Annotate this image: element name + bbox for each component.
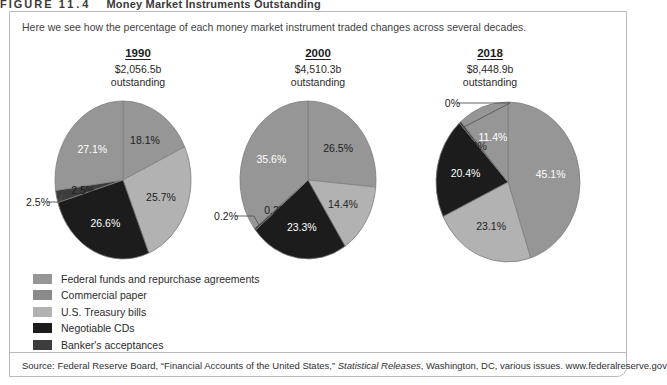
column-outstanding: outstanding: [48, 76, 228, 89]
legend-label: Negotiable CDs: [61, 322, 135, 334]
column-outstanding: outstanding: [400, 76, 580, 89]
pie-slice-label: 20.4%: [451, 167, 481, 179]
column-header-2000: 2000 $4,510.3b outstanding: [228, 47, 408, 89]
source-suffix: , Washington, DC, various issues. www.fe…: [421, 360, 667, 371]
pie-callout-label: 2.5%: [26, 196, 50, 208]
legend-item: Banker's acceptances: [33, 337, 259, 352]
legend-item: Commercial paper: [33, 288, 259, 303]
legend-swatch-federal-funds: [33, 274, 52, 284]
pie-callout-label: 0.2%: [214, 210, 238, 222]
figure-label: FIGURE: [0, 0, 54, 10]
pie-slice-label: 35.6%: [256, 153, 286, 165]
legend-item: U.S. Treasury bills: [33, 304, 259, 319]
column-amount: $2,056.5b: [48, 63, 228, 76]
pie-chart-2018-svg: 45.1%23.1%20.4%0%11.4%0%: [398, 92, 618, 272]
legend-label: Federal funds and repurchase agreements: [61, 273, 259, 285]
pie-slice-label: 23.1%: [476, 220, 506, 232]
pie-slice-label: 27.1%: [77, 143, 107, 155]
column-header-1990: 1990 $2,056.5b outstanding: [48, 47, 228, 89]
column-year: 1990: [48, 47, 228, 59]
legend-swatch-bankers-acceptances: [33, 340, 52, 350]
legend-label: Commercial paper: [61, 289, 147, 301]
pie-slice-label: 26.5%: [323, 142, 353, 154]
pie-slice-label: 26.6%: [91, 217, 121, 229]
source-divider: [10, 352, 626, 353]
pie-slice-label: 2.5%: [71, 184, 95, 196]
column-amount: $8,448.9b: [400, 63, 580, 76]
figure-caption: Money Market Instruments Outstanding: [107, 0, 321, 10]
column-header-2018: 2018 $8,448.9b outstanding: [400, 47, 580, 89]
pie-slice-label: 0.2%: [264, 204, 288, 216]
pie-slice-label: 14.4%: [328, 198, 358, 210]
pie-slice-label: 45.1%: [536, 168, 566, 180]
column-year: 2018: [400, 47, 580, 59]
legend-swatch-commercial-paper: [33, 290, 52, 300]
source-italic: Statistical Releases: [338, 360, 421, 371]
pie-slice-label: 11.4%: [478, 131, 507, 143]
legend-item: Federal funds and repurchase agreements: [33, 271, 259, 286]
column-year: 2000: [228, 47, 408, 59]
legend-label: Banker's acceptances: [61, 339, 163, 351]
figure-title: FIGURE 11.4 Money Market Instruments Out…: [0, 0, 637, 10]
pie-slice-label: 25.7%: [146, 191, 176, 203]
pie-slice-label: 23.3%: [287, 221, 317, 233]
pie-callout-label: 0%: [445, 97, 460, 109]
pie-chart-2000-wrap: 26.5%14.4%23.3%0.2%35.6%0.2%: [208, 98, 408, 268]
pie-chart-1990-svg: 18.1%25.7%26.6%2.5%27.1%2.5%: [18, 98, 218, 268]
column-amount: $4,510.3b: [228, 63, 408, 76]
pie-slice-label: 18.1%: [130, 134, 160, 146]
legend-swatch-negotiable-cds: [33, 323, 52, 333]
figure-number: 11.4: [59, 0, 92, 10]
column-outstanding: outstanding: [228, 76, 408, 89]
figure-intro-text: Here we see how the percentage of each m…: [22, 21, 526, 33]
legend-item: Negotiable CDs: [33, 321, 259, 336]
source-prefix: Source: Federal Reserve Board, “Financia…: [22, 360, 338, 371]
source-note: Source: Federal Reserve Board, “Financia…: [22, 360, 667, 371]
pie-chart-2018-wrap: 45.1%23.1%20.4%0%11.4%0%: [398, 92, 618, 272]
pie-chart-2000-svg: 26.5%14.4%23.3%0.2%35.6%0.2%: [208, 98, 408, 268]
legend-label: U.S. Treasury bills: [61, 306, 146, 318]
pie-chart-1990: 18.1%25.7%26.6%2.5%27.1%2.5%: [18, 98, 218, 268]
legend: Federal funds and repurchase agreements …: [33, 271, 259, 354]
legend-swatch-treasury-bills: [33, 307, 52, 317]
